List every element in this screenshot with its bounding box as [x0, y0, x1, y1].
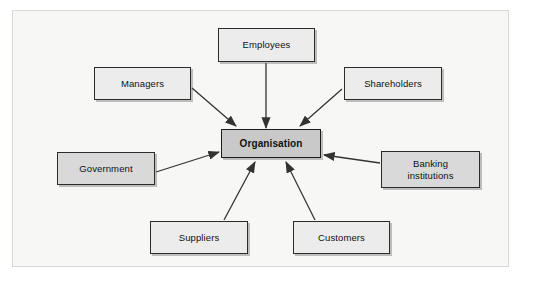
node-suppliers[interactable]: Suppliers [150, 221, 248, 254]
node-banking-institutions[interactable]: Banking institutions [381, 151, 480, 188]
node-government[interactable]: Government [57, 152, 155, 185]
node-managers[interactable]: Managers [94, 67, 191, 100]
node-suppliers-label: Suppliers [179, 232, 220, 244]
diagram-canvas: Employees Managers Shareholders Organisa… [0, 0, 533, 281]
node-banking-institutions-label: Banking institutions [407, 158, 453, 181]
node-managers-label: Managers [121, 78, 164, 90]
node-employees[interactable]: Employees [218, 28, 315, 62]
node-government-label: Government [79, 163, 132, 175]
node-shareholders-label: Shareholders [364, 78, 422, 90]
node-customers-label: Customers [318, 232, 365, 244]
node-shareholders[interactable]: Shareholders [344, 67, 442, 100]
node-organisation-label: Organisation [240, 138, 303, 150]
node-organisation[interactable]: Organisation [221, 129, 321, 158]
node-customers[interactable]: Customers [293, 221, 390, 254]
node-employees-label: Employees [243, 39, 291, 51]
